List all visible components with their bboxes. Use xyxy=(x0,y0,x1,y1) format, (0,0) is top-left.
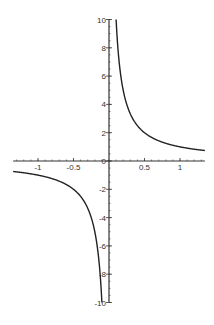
y-tick-label: -10 xyxy=(94,299,106,308)
x-tick-label: -1 xyxy=(34,163,42,172)
y-tick-label: 0 xyxy=(102,157,107,166)
y-tick-label: 6 xyxy=(102,72,107,81)
curve-positive-branch xyxy=(116,20,205,151)
axes: -1-0.50.51-10-8-6-4-20246810 xyxy=(13,16,205,308)
y-tick-label: 10 xyxy=(97,16,106,25)
y-tick-label: 2 xyxy=(102,129,107,138)
y-tick-label: -6 xyxy=(99,242,107,251)
chart-plot: -1-0.50.51-10-8-6-4-20246810 xyxy=(0,0,214,325)
x-tick-label: 0.5 xyxy=(139,163,151,172)
x-tick-label: -0.5 xyxy=(67,163,81,172)
y-tick-label: 4 xyxy=(102,100,107,109)
y-tick-label: 8 xyxy=(102,44,107,53)
y-tick-label: -2 xyxy=(99,185,107,194)
y-tick-label: -4 xyxy=(99,214,107,223)
curve-negative-branch xyxy=(13,171,102,302)
x-tick-label: 1 xyxy=(178,163,183,172)
